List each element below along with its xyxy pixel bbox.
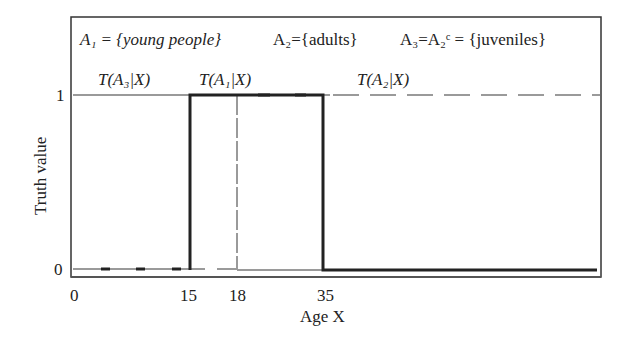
series-label-a1: T(A₁|X)	[199, 70, 251, 89]
x-tick-35: 35	[317, 286, 334, 305]
series-label-a3: T(A₃|X)	[98, 70, 150, 89]
header-a3: A₃=A₂ᶜ = {juveniles}	[400, 30, 546, 49]
y-axis-label: Truth value	[31, 137, 50, 215]
x-axis-label: Age X	[300, 307, 345, 326]
y-tick-1: 1	[56, 86, 65, 105]
series-a1-line	[190, 95, 597, 270]
series-a3-line	[73, 95, 237, 269]
series-a2-line	[73, 95, 600, 270]
plot-frame	[71, 17, 601, 277]
truth-value-chart: A₁ = {young people} A₂={adults} A₃=A₂ᶜ =…	[0, 0, 629, 342]
header-a2: A₂={adults}	[273, 30, 358, 49]
x-tick-15: 15	[180, 286, 197, 305]
x-tick-0: 0	[70, 286, 79, 305]
x-tick-18: 18	[229, 286, 246, 305]
series-label-a2: T(A₂|X)	[357, 70, 409, 89]
baseline-dash-accents	[101, 95, 306, 269]
header-a1: A₁ = {young people}	[79, 30, 221, 49]
y-tick-0: 0	[54, 260, 63, 279]
